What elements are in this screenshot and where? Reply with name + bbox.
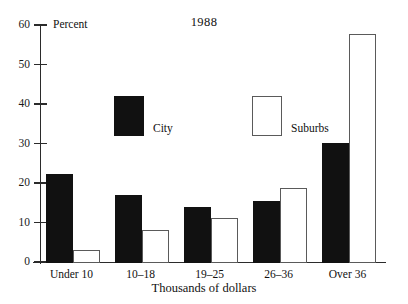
bar-city-over-36 (322, 143, 349, 263)
bar-chart: 1988 Percent 6050403020100 Under 1010–18… (0, 0, 408, 304)
legend-label-city: City (153, 122, 173, 136)
bar-city-26-36 (253, 201, 280, 263)
bar-suburbs-19-25 (211, 218, 238, 263)
x-label-19-25: 19–25 (175, 268, 244, 280)
y-tick-label-40: 40 (0, 98, 30, 110)
x-label-26-36: 26–36 (244, 268, 313, 280)
plot-area (41, 25, 386, 263)
y-tick-label-20: 20 (0, 177, 30, 189)
bar-city-19-25 (184, 207, 211, 263)
legend-swatch-city (114, 96, 144, 136)
bar-city-10-18 (115, 195, 142, 263)
x-label-over-36: Over 36 (313, 268, 382, 280)
bar-city-under-10 (46, 174, 73, 263)
x-label-10-18: 10–18 (106, 268, 175, 280)
x-axis-title: Thousands of dollars (0, 282, 408, 295)
bar-suburbs-10-18 (142, 230, 169, 263)
x-label-under-10: Under 10 (37, 268, 106, 280)
y-tick-label-30: 30 (0, 138, 30, 150)
legend-swatch-suburbs (252, 96, 282, 136)
y-tick-label-10: 10 (0, 217, 30, 229)
legend-label-suburbs: Suburbs (291, 122, 329, 136)
bar-suburbs-under-10 (73, 250, 100, 263)
y-tick-label-0: 0 (0, 256, 30, 268)
bar-suburbs-over-36 (349, 34, 376, 263)
legend-item-city: City (114, 90, 173, 136)
y-tick-label-50: 50 (0, 59, 30, 71)
bar-suburbs-26-36 (280, 188, 307, 263)
legend-item-suburbs: Suburbs (252, 90, 329, 136)
y-tick-label-60: 60 (0, 19, 30, 31)
